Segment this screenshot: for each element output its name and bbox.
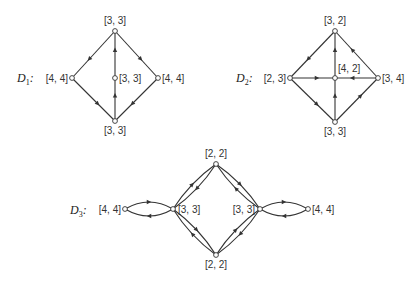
- edge-left-to-bottom: [290, 78, 335, 122]
- diagram-label-d3: D3:: [69, 203, 87, 219]
- node-label: [4, 4]: [99, 204, 121, 215]
- node-d3-rout: [306, 207, 311, 212]
- node-d2-right: [376, 76, 381, 81]
- edge-bottom-to-right: [335, 78, 378, 122]
- edge-top-to-left: [290, 31, 335, 78]
- node-d1-left: [70, 76, 75, 81]
- node-label: [3, 2]: [324, 15, 346, 26]
- node-label: [3, 3]: [233, 204, 255, 215]
- diagram-d3: [125, 164, 308, 255]
- edge-top-to-right: [115, 31, 158, 78]
- edge-lin-to-top: [173, 164, 216, 209]
- arrowhead-icon: [147, 200, 152, 204]
- arrowhead-icon: [113, 48, 117, 53]
- node-d1-center: [113, 76, 118, 81]
- node-d2-center: [333, 76, 338, 81]
- node-label: [3, 3]: [104, 125, 126, 136]
- arrowhead-icon: [333, 93, 337, 98]
- node-d3-lin: [171, 207, 176, 212]
- node-label: [3, 3]: [119, 73, 141, 84]
- node-d3-top: [214, 162, 219, 167]
- edge-bottom-to-rin: [216, 209, 260, 255]
- digraph-canvas: [3, 3][4, 4][3, 3][4, 4][3, 3]D1:[3, 2][…: [0, 0, 420, 284]
- node-label: [4, 4]: [162, 73, 184, 84]
- arrowhead-icon: [282, 200, 287, 204]
- node-label: [4, 2]: [338, 63, 360, 74]
- node-label: [3, 3]: [178, 204, 200, 215]
- node-d3-bottom: [214, 253, 219, 258]
- diagram-label-d2: D2:: [235, 71, 253, 87]
- node-label: [4, 4]: [312, 204, 334, 215]
- edge-rin-to-bottom: [216, 209, 260, 255]
- arrowhead-icon: [315, 76, 320, 80]
- node-label: [2, 2]: [205, 148, 227, 159]
- edges-layer: [72, 31, 378, 255]
- node-d3-lout: [123, 207, 128, 212]
- node-label: [4, 4]: [46, 73, 68, 84]
- arrowhead-icon: [282, 214, 287, 218]
- node-d1-top: [113, 29, 118, 34]
- edge-lin-to-bottom: [173, 209, 216, 255]
- node-label: [2, 2]: [205, 259, 227, 270]
- nodes-layer: [70, 29, 381, 258]
- edge-right-to-bottom: [115, 78, 158, 121]
- node-d1-right: [156, 76, 161, 81]
- node-label: [3, 3]: [324, 126, 346, 137]
- arrowhead-icon: [333, 48, 337, 53]
- edge-bottom-to-lin: [173, 209, 216, 255]
- node-label: [3, 4]: [382, 73, 404, 84]
- edge-left-to-bottom: [72, 78, 115, 121]
- edge-rin-to-top: [216, 164, 260, 209]
- arrowhead-icon: [350, 76, 355, 80]
- edge-top-to-lin: [173, 164, 216, 209]
- diagram-label-d1: D1:: [16, 71, 34, 87]
- node-d2-bottom: [333, 120, 338, 125]
- node-d3-rin: [258, 207, 263, 212]
- labels-layer: [3, 3][4, 4][3, 3][4, 4][3, 3]D1:[3, 2][…: [16, 15, 404, 270]
- edge-top-to-rin: [216, 164, 260, 209]
- arrowhead-icon: [113, 93, 117, 98]
- edge-top-to-left: [72, 31, 115, 78]
- node-d2-left: [288, 76, 293, 81]
- node-d1-bottom: [113, 119, 118, 124]
- node-d2-top: [333, 29, 338, 34]
- node-label: [3, 3]: [104, 15, 126, 26]
- node-label: [2, 3]: [264, 73, 286, 84]
- arrowhead-icon: [147, 214, 152, 218]
